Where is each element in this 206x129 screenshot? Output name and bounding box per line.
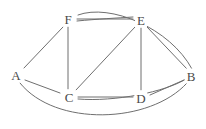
vertex-label-e: E xyxy=(135,13,147,28)
vertex-label-c: C xyxy=(63,90,76,105)
edge-a-c xyxy=(25,80,60,93)
graph-edges-canvas xyxy=(0,0,206,129)
edge-c-b xyxy=(78,79,186,100)
edge-a-f xyxy=(24,27,63,68)
edge-e-b xyxy=(147,27,187,69)
vertex-label-b: B xyxy=(185,69,198,84)
graph-figure: A B C D E F xyxy=(0,0,206,129)
vertex-label-f: F xyxy=(62,12,73,27)
vertex-label-d: D xyxy=(134,91,147,106)
edge-d-b xyxy=(150,80,184,95)
edge-e-c xyxy=(76,27,135,90)
vertex-label-a: A xyxy=(9,68,22,83)
